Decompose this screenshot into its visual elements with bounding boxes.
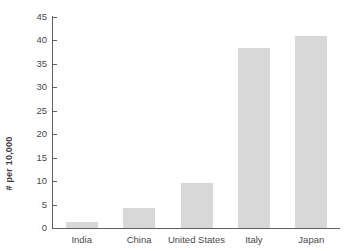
bar-chart: # per 10,000 051015202530354045 IndiaChi… — [0, 0, 345, 251]
y-tick-label: 35 — [36, 58, 47, 69]
y-tick-mark — [52, 228, 57, 229]
y-tick-label: 0 — [42, 222, 47, 233]
x-axis-label: Japan — [283, 233, 340, 246]
bar — [295, 36, 327, 228]
y-tick-label: 40 — [36, 34, 47, 45]
y-tick-label: 20 — [36, 128, 47, 139]
y-axis-title-label: # per 10,000 — [4, 137, 14, 191]
y-tick-label: 5 — [42, 199, 47, 210]
x-axis-label: India — [53, 233, 110, 246]
x-axis-label: Italy — [225, 233, 282, 246]
x-axis-label: United States — [168, 233, 225, 246]
bar — [238, 48, 270, 228]
bar — [66, 222, 98, 228]
y-tick-label: 10 — [36, 175, 47, 186]
y-tick-label: 45 — [36, 11, 47, 22]
y-tick: 0 — [0, 228, 345, 229]
y-axis-title: # per 10,000 — [0, 0, 18, 251]
bar — [181, 183, 213, 228]
bars-layer — [53, 17, 340, 228]
y-tick-label: 30 — [36, 81, 47, 92]
bar — [123, 208, 155, 228]
x-axis-labels: IndiaChinaUnited StatesItalyJapan — [53, 233, 340, 249]
y-tick-label: 15 — [36, 152, 47, 163]
x-axis-label: China — [110, 233, 167, 246]
y-tick-label: 25 — [36, 105, 47, 116]
